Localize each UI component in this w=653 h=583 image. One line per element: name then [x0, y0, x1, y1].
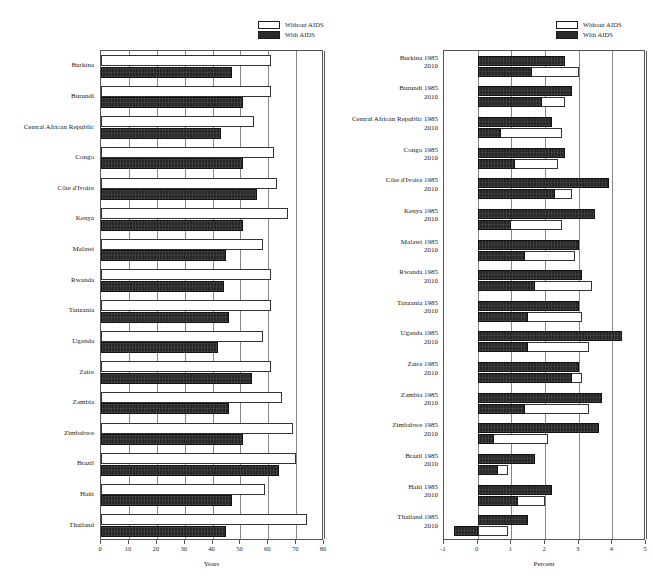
bar-with-aids: [101, 465, 279, 476]
legend-population-growth: Without AIDSWith AIDS: [556, 20, 622, 39]
chart-panel-life-expectancy: Without AIDSWith AIDS 01020304050607080 …: [0, 0, 340, 583]
category-label: Malawi: [0, 245, 94, 253]
bar-with-aids: [101, 342, 218, 353]
legend-item-black: With AIDS: [258, 30, 324, 39]
category-label-1985: Burkina 1985: [340, 54, 438, 63]
bar-with-aids-2010: [478, 465, 498, 475]
bar-without-aids: [101, 269, 271, 280]
bar-with-aids-1985: [478, 56, 566, 66]
legend-label: Without AIDS: [285, 21, 324, 29]
bar-with-aids-1985: [478, 393, 603, 403]
category-label-2010: 2010: [340, 93, 438, 102]
x-tick-label: 20: [153, 545, 160, 552]
category-label: Haiti: [0, 490, 94, 498]
category-label-2010: 2010: [340, 369, 438, 378]
bar-without-aids: [101, 331, 263, 342]
category-label: Burundi 19852010: [340, 84, 438, 101]
bar-with-aids-2010: [478, 251, 525, 261]
category-label: Thailand 19852010: [340, 513, 438, 530]
x-tick-label: 0: [475, 545, 478, 552]
gridline: [324, 51, 325, 539]
bar-with-aids-1985: [478, 270, 582, 280]
category-label-1985: Burundi 1985: [340, 84, 438, 93]
x-tick: [443, 540, 444, 544]
bar-with-aids: [101, 189, 257, 200]
bar-with-aids-1985: [478, 209, 596, 219]
bar-with-aids-2010: [478, 189, 555, 199]
legend-life-expectancy: Without AIDSWith AIDS: [258, 20, 324, 39]
bar-with-aids-1985: [478, 362, 579, 372]
gridline: [646, 51, 647, 539]
category-label: Burkina: [0, 61, 94, 69]
bar-with-aids: [101, 373, 252, 384]
category-label: Uganda: [0, 337, 94, 345]
category-label: Rwanda 19852010: [340, 268, 438, 285]
category-label: Malawi 19852010: [340, 238, 438, 255]
x-tick: [323, 540, 324, 544]
bar-with-aids-2010: [478, 220, 512, 230]
bar-with-aids-1985: [478, 454, 535, 464]
bar-without-aids: [101, 178, 277, 189]
bar-with-aids: [101, 220, 243, 231]
category-label: Zambia 19852010: [340, 391, 438, 408]
category-label-2010: 2010: [340, 62, 438, 71]
category-label: Tanzania 19852010: [340, 299, 438, 316]
bar-with-aids-2010: [478, 159, 515, 169]
category-label: Central African Republic: [0, 123, 94, 131]
category-label: Uganda 19852010: [340, 329, 438, 346]
x-tick-label: -1: [440, 545, 445, 552]
bar-with-aids-2010: [478, 128, 502, 138]
bar-with-aids-1985: [478, 485, 552, 495]
x-tick: [295, 540, 296, 544]
category-label-1985: Congo 1985: [340, 146, 438, 155]
x-tick: [156, 540, 157, 544]
bar-with-aids: [101, 250, 226, 261]
bar-without-aids: [101, 361, 271, 372]
x-tick: [578, 540, 579, 544]
x-tick: [100, 540, 101, 544]
bar-with-aids: [101, 526, 226, 537]
category-label-1985: Thailand 1985: [340, 513, 438, 522]
category-label-2010: 2010: [340, 430, 438, 439]
category-label-1985: Zaire 1985: [340, 360, 438, 369]
bar-with-aids: [101, 495, 232, 506]
bar-without-aids: [101, 453, 296, 464]
category-label: Tanzania: [0, 306, 94, 314]
x-tick: [611, 540, 612, 544]
category-label: Rwanda: [0, 276, 94, 284]
bar-with-aids-2010: [478, 404, 525, 414]
bar-with-aids: [101, 312, 229, 323]
bar-with-aids-2010: [478, 496, 518, 506]
legend-item-white: Without AIDS: [258, 20, 324, 29]
category-label-1985: Rwanda 1985: [340, 268, 438, 277]
bar-with-aids-1985: [478, 86, 572, 96]
x-tick-label: 3: [576, 545, 579, 552]
gridline: [579, 51, 580, 539]
category-label-2010: 2010: [340, 154, 438, 163]
bar-with-aids-1985: [478, 117, 552, 127]
plot-area-population-growth: [443, 50, 645, 540]
bar-without-aids: [101, 116, 254, 127]
x-tick-label: 10: [125, 545, 132, 552]
bar-without-aids: [101, 55, 271, 66]
legend-swatch-black-icon: [556, 31, 578, 39]
bar-with-aids: [101, 281, 224, 292]
x-tick-label: 2: [542, 545, 545, 552]
legend-label: Without AIDS: [583, 21, 622, 29]
category-label-1985: Kenya 1985: [340, 207, 438, 216]
category-label: Haiti 19852010: [340, 483, 438, 500]
bar-with-aids-2010: [478, 312, 529, 322]
category-label-2010: 2010: [340, 460, 438, 469]
bar-with-aids: [101, 158, 243, 169]
category-label: Brazil: [0, 459, 94, 467]
x-tick-label: 60: [264, 545, 271, 552]
category-label: Côte d'Ivoire 19852010: [340, 176, 438, 193]
category-label-1985: Brazil 1985: [340, 452, 438, 461]
x-tick: [212, 540, 213, 544]
category-label-2010: 2010: [340, 491, 438, 500]
category-label: Côte d'Ivoire: [0, 184, 94, 192]
legend-label: With AIDS: [583, 31, 613, 39]
legend-item-white: Without AIDS: [556, 20, 622, 29]
bar-with-aids-1985: [478, 301, 579, 311]
category-label-1985: Uganda 1985: [340, 329, 438, 338]
